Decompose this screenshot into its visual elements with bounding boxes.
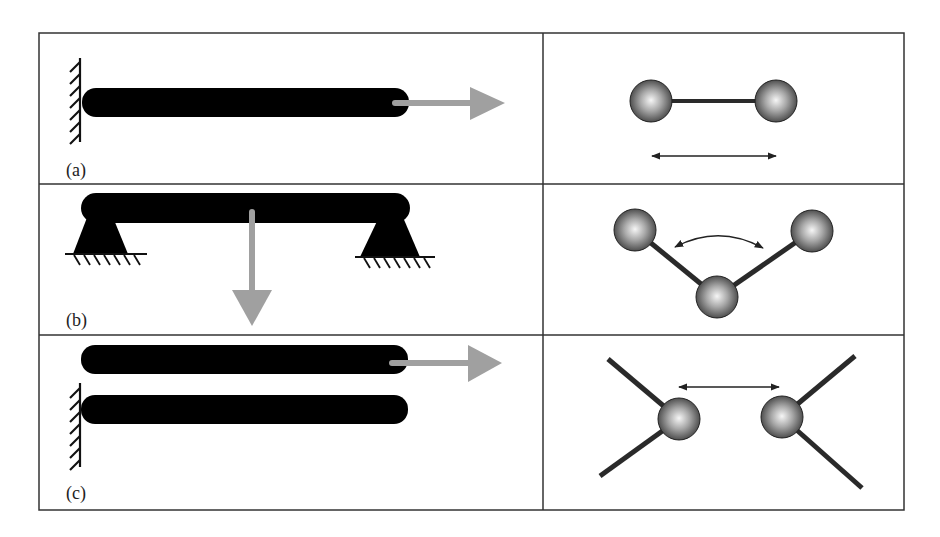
atom (614, 209, 656, 251)
lower-beam (81, 395, 408, 424)
atom (630, 80, 672, 122)
panel-label-a: (a) (66, 160, 86, 181)
panel-label-b: (b) (66, 310, 87, 331)
load-force-arrow-icon (232, 212, 272, 326)
atom (791, 210, 833, 252)
beam (81, 193, 410, 223)
tensile-force-arrow-icon (395, 87, 505, 120)
panel-b-molecular (614, 209, 833, 318)
fixed-wall-icon (70, 58, 80, 144)
panel-c-mechanical: (c) (66, 345, 502, 504)
atom (696, 276, 738, 318)
shear-force-arrow-icon (392, 345, 502, 382)
atom (658, 398, 700, 440)
atom (755, 80, 797, 122)
panel-c-molecular (600, 356, 862, 488)
upper-beam (81, 345, 408, 374)
atom (761, 396, 803, 438)
panel-a-mechanical: (a) (66, 58, 505, 181)
panel-label-c: (c) (66, 483, 86, 504)
bonds (600, 356, 862, 488)
beam (82, 88, 409, 117)
fixed-wall-icon (70, 383, 80, 470)
bend-arc-arrow-icon (675, 236, 763, 248)
mechanics-molecular-analogy-figure: (a) (0, 0, 940, 537)
panel-a-molecular (630, 80, 797, 156)
panel-b-mechanical: (b) (65, 193, 435, 331)
